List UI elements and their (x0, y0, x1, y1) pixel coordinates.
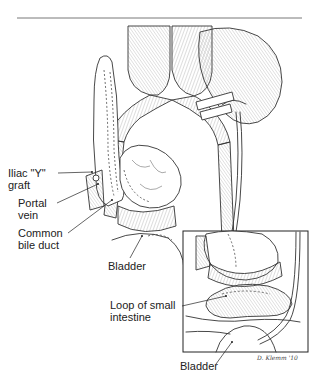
label-bladder-main: Bladder (108, 260, 146, 272)
label-loop-small-intestine: Loop of small intestine (110, 299, 175, 323)
label-common-bile-duct: Common bile duct (18, 227, 63, 251)
label-portal-vein: Portal vein (18, 197, 47, 221)
label-bladder-inset: Bladder (180, 360, 218, 372)
surgical-figure: Iliac "Y" graft Portal vein Common bile … (0, 0, 324, 385)
illustration-drawing (0, 0, 324, 385)
artist-signature: D. Klemm '10 (257, 354, 298, 361)
label-iliac-y-graft: Iliac "Y" graft (8, 167, 46, 191)
inset-panel (183, 231, 308, 352)
